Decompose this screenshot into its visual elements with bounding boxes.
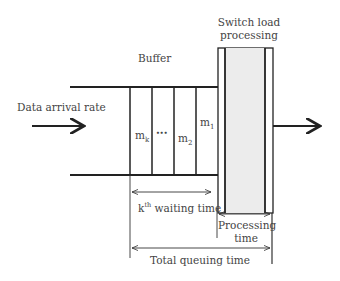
switch-box — [218, 48, 273, 213]
buffer-label: Buffer — [138, 53, 171, 64]
switch-label-line1: Switch load — [214, 17, 284, 28]
processing-time-line2: time — [218, 233, 274, 244]
total-queuing-label: Total queuing time — [140, 255, 260, 266]
cell-ellipsis: ••• — [156, 130, 168, 136]
cell-m1: m1 — [200, 117, 214, 131]
processing-time-line1: Processing — [218, 220, 274, 231]
switch-label-line2: processing — [214, 30, 284, 41]
input-label: Data arrival rate — [17, 102, 106, 113]
kth-waiting-label: kth waiting time — [138, 202, 221, 213]
cell-m2: m2 — [178, 133, 192, 147]
queue-diagram — [0, 0, 340, 281]
cell-mk: mk — [135, 130, 149, 144]
